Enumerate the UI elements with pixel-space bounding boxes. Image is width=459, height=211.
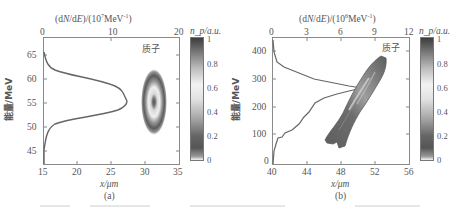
cbar-tick-0.4: 0.4 <box>207 108 218 117</box>
cbar-tick-0: 0 <box>437 156 441 165</box>
bottom-tick-56: 56 <box>404 168 414 178</box>
annotation-proton-b: 质子 <box>382 44 400 53</box>
cbar-tick-0.2: 0.2 <box>207 132 218 141</box>
panel-b: (dN/dE)/(106MeV-1) 0 3 6 9 12 <box>229 0 459 211</box>
bottom-tick-30: 30 <box>140 168 150 178</box>
cbar-tick-0.8: 0.8 <box>207 60 218 69</box>
caption-blur-3 <box>190 205 285 207</box>
left-tick-65: 65 <box>27 51 37 61</box>
left-tick-200: 200 <box>252 103 266 113</box>
left-tick-50: 50 <box>27 123 37 133</box>
left-tick-55: 55 <box>27 99 37 109</box>
cbar-tick-0.6: 0.6 <box>207 84 218 93</box>
panel-label-b: (b) <box>335 192 346 202</box>
colorbar-a <box>190 37 204 161</box>
colorbar-b <box>420 37 434 161</box>
bottom-tick-48: 48 <box>336 168 346 178</box>
cbar-tick-1: 1 <box>207 35 211 44</box>
caption-blur-2 <box>90 205 150 207</box>
colorbar-label-b: n_p/a.u. <box>419 27 450 37</box>
cbar-tick-0.8: 0.8 <box>437 60 448 69</box>
cbar-tick-1: 1 <box>437 35 441 44</box>
bottom-tick-25: 25 <box>106 168 116 178</box>
beam-spot-a <box>141 69 167 135</box>
annotation-proton-a: 质子 <box>142 45 160 54</box>
caption-blur-1 <box>40 205 70 207</box>
left-tick-45: 45 <box>27 147 37 157</box>
left-tick-300: 300 <box>252 75 266 85</box>
bottom-tick-44: 44 <box>302 168 312 178</box>
left-axis-label-a: 能量/MeV <box>5 78 14 121</box>
bottom-tick-15: 15 <box>38 168 48 178</box>
left-tick-400: 400 <box>252 47 266 57</box>
left-tick-100: 100 <box>252 130 266 140</box>
caption-blur-4 <box>355 205 420 207</box>
cbar-tick-0.2: 0.2 <box>437 132 448 141</box>
spectrum-curve-a <box>44 52 127 164</box>
colorbar-label-a: n_p/a.u. <box>190 27 221 37</box>
left-tick-60: 60 <box>27 75 37 85</box>
bottom-tick-35: 35 <box>173 168 183 178</box>
cbar-tick-0: 0 <box>207 156 211 165</box>
bottom-axis-label-b: x/μm <box>331 180 350 190</box>
cbar-tick-0.4: 0.4 <box>437 108 448 117</box>
left-axis-label-b: 能量/MeV <box>232 78 241 121</box>
bottom-tick-20: 20 <box>72 168 82 178</box>
panel-label-a: (a) <box>104 192 115 202</box>
cbar-tick-0.6: 0.6 <box>437 84 448 93</box>
bottom-tick-40: 40 <box>267 168 277 178</box>
bottom-tick-52: 52 <box>370 168 380 178</box>
bottom-axis-label-a: x/μm <box>100 180 119 190</box>
left-tick-0: 0 <box>264 157 269 167</box>
panel-a: (dN/dE)/(107MeV-1) 0 10 20 <box>0 0 230 211</box>
